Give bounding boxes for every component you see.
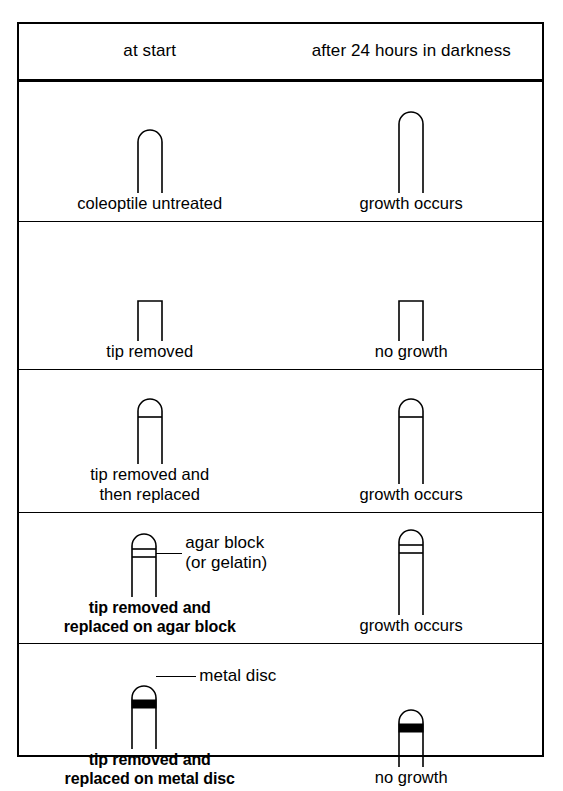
coleoptile-rounded-icon bbox=[135, 126, 165, 194]
cell-caption: tip removed and replaced on agar block bbox=[64, 598, 236, 636]
coleoptile-cut-icon bbox=[396, 298, 426, 342]
cell-caption: growth occurs bbox=[360, 485, 463, 505]
table-row: metal disc tip removed and replaced on m… bbox=[19, 644, 542, 791]
cell-caption: no growth bbox=[375, 342, 448, 362]
coleoptile-metal-disc-icon bbox=[396, 706, 426, 768]
coleoptile-rejoined-icon bbox=[396, 395, 426, 485]
table-header: at start after 24 hours in darkness bbox=[19, 24, 542, 82]
coleoptile-diagram bbox=[281, 370, 543, 485]
cell-untreated-start: coleoptile untreated bbox=[19, 82, 281, 221]
coleoptile-diagram bbox=[19, 82, 281, 194]
column-header-after-24-hours: after 24 hours in darkness bbox=[281, 24, 543, 79]
cell-tip-removed-after: no growth bbox=[281, 222, 543, 369]
coleoptile-diagram bbox=[281, 513, 543, 616]
cell-caption: growth occurs bbox=[360, 616, 463, 636]
cell-caption: coleoptile untreated bbox=[77, 194, 222, 214]
coleoptile-rejoined-icon bbox=[135, 395, 165, 465]
cell-agar-after: growth occurs bbox=[281, 513, 543, 643]
coleoptile-diagram bbox=[19, 222, 281, 342]
table-row: tip removed and then replaced growth occ… bbox=[19, 370, 542, 513]
cell-metal-start: metal disc tip removed and replaced on m… bbox=[19, 644, 281, 791]
coleoptile-rounded-icon bbox=[396, 108, 426, 194]
coleoptile-diagram bbox=[281, 82, 543, 194]
table-row: tip removed no growth bbox=[19, 222, 542, 370]
cell-caption: no growth bbox=[375, 768, 448, 788]
coleoptile-agar-icon bbox=[396, 526, 426, 616]
cell-agar-start: agar block (or gelatin) tip removed and … bbox=[19, 513, 281, 643]
cell-caption: tip removed bbox=[106, 342, 193, 362]
table-row: coleoptile untreated growth occurs bbox=[19, 82, 542, 222]
cell-caption: tip removed and then replaced bbox=[90, 465, 209, 505]
coleoptile-experiment-figure: at start after 24 hours in darkness cole… bbox=[17, 22, 544, 757]
coleoptile-diagram bbox=[13, 513, 275, 598]
coleoptile-cut-icon bbox=[135, 298, 165, 342]
cell-tip-removed-start: tip removed bbox=[19, 222, 281, 369]
coleoptile-diagram bbox=[281, 644, 543, 768]
column-header-at-start: at start bbox=[19, 24, 281, 79]
cell-tip-replaced-after: growth occurs bbox=[281, 370, 543, 512]
coleoptile-diagram bbox=[19, 370, 281, 465]
cell-untreated-after: growth occurs bbox=[281, 82, 543, 221]
cell-tip-replaced-start: tip removed and then replaced bbox=[19, 370, 281, 512]
cell-caption: growth occurs bbox=[360, 194, 463, 214]
table-row: agar block (or gelatin) tip removed and … bbox=[19, 513, 542, 644]
coleoptile-agar-icon bbox=[129, 530, 159, 598]
cell-metal-after: no growth bbox=[281, 644, 543, 791]
cell-caption: tip removed and replaced on metal disc bbox=[65, 750, 235, 788]
coleoptile-diagram bbox=[13, 644, 275, 750]
coleoptile-metal-disc-icon bbox=[129, 682, 159, 750]
coleoptile-diagram bbox=[281, 222, 543, 342]
